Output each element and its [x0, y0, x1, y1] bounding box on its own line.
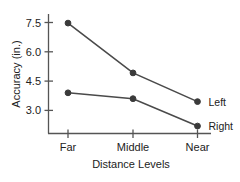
line-chart: 7.5 6.0 4.5 3.0 Far Middle Near Distance…	[0, 0, 240, 182]
series-right	[65, 90, 200, 129]
chart-canvas: 7.5 6.0 4.5 3.0 Far Middle Near Distance…	[0, 0, 240, 182]
series-left-line	[68, 23, 198, 102]
x-axis-tick-labels: Far Middle Near	[60, 141, 210, 153]
y-tick-label: 6.0	[26, 46, 41, 58]
y-axis-title: Accuracy (in.)	[10, 40, 22, 107]
y-axis-tick-labels: 7.5 6.0 4.5 3.0	[26, 17, 41, 117]
x-tick-label-near: Near	[186, 141, 210, 153]
x-tick-label-far: Far	[60, 141, 77, 153]
legend-label-left: Left	[209, 96, 227, 108]
series-left	[65, 20, 200, 104]
data-point	[65, 90, 71, 96]
x-tick-label-middle: Middle	[117, 141, 149, 153]
data-point	[130, 96, 136, 102]
data-point	[65, 20, 71, 26]
y-tick-label: 4.5	[26, 75, 41, 87]
data-point	[195, 123, 201, 129]
data-point	[195, 99, 201, 105]
y-tick-label: 3.0	[26, 104, 41, 116]
y-tick-label: 7.5	[26, 17, 41, 29]
data-point	[130, 70, 136, 76]
x-axis-title: Distance Levels	[92, 158, 170, 170]
legend-label-right: Right	[209, 120, 234, 132]
